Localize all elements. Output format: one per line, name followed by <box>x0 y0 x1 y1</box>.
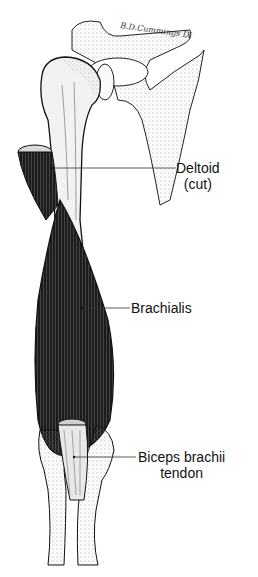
brachialis-muscle <box>35 200 114 456</box>
label-biceps-line1: Biceps brachii <box>138 449 225 465</box>
label-brachialis: Brachialis <box>131 300 192 316</box>
arm-anatomy-illustration <box>0 0 258 577</box>
label-deltoid: Deltoid (cut) <box>176 160 220 192</box>
label-brachialis-line1: Brachialis <box>131 300 192 316</box>
label-biceps-line2: tendon <box>138 465 225 481</box>
label-deltoid-line1: Deltoid <box>176 160 220 176</box>
label-biceps-tendon: Biceps brachii tendon <box>138 449 225 481</box>
deltoid-muscle <box>18 145 58 220</box>
label-deltoid-line2: (cut) <box>176 176 220 192</box>
